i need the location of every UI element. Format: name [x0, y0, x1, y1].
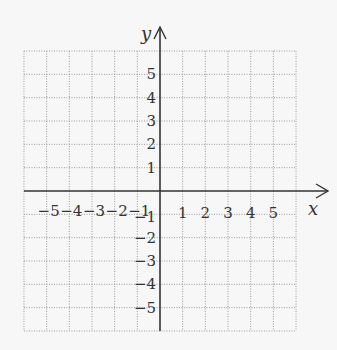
y-tick-label: −4: [134, 275, 156, 293]
y-tick-label: 5: [146, 65, 156, 83]
x-tick-label: −2: [106, 202, 128, 220]
y-tick-label: −1: [134, 208, 156, 226]
x-tick-label: 3: [223, 204, 233, 222]
x-tick-label: 4: [246, 204, 256, 222]
x-axis-label: x: [308, 198, 318, 219]
x-tick-label: 2: [201, 204, 211, 222]
coordinate-grid-svg: xy−5−4−3−2−11234554321−1−2−3−4−5: [0, 0, 337, 350]
y-tick-label: 2: [146, 135, 156, 153]
y-tick-label: −2: [134, 229, 156, 247]
x-tick-label: 5: [269, 204, 279, 222]
y-tick-label: 4: [146, 89, 156, 107]
y-tick-label: −5: [134, 299, 156, 317]
y-axis-label: y: [140, 23, 152, 44]
tick-labels: xy−5−4−3−2−11234554321−1−2−3−4−5: [38, 23, 319, 317]
x-tick-label: −4: [60, 202, 82, 220]
y-tick-label: 3: [146, 112, 156, 130]
y-tick-label: 1: [146, 159, 156, 177]
x-tick-label: −5: [38, 202, 60, 220]
x-tick-label: −3: [83, 202, 105, 220]
y-tick-label: −3: [134, 252, 156, 270]
coordinate-plane: xy−5−4−3−2−11234554321−1−2−3−4−5: [0, 0, 337, 350]
x-tick-label: 1: [178, 204, 188, 222]
